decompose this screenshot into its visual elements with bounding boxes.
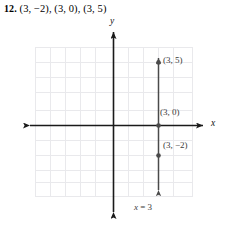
coordinate-plane xyxy=(0,0,229,232)
plotted-point-3-0 xyxy=(156,123,161,128)
line-equation-value: 3 xyxy=(148,202,153,212)
plotted-point-3-5 xyxy=(156,60,161,65)
line-equation-operator: = xyxy=(138,202,148,212)
plotted-point-3-neg2 xyxy=(156,153,161,158)
point-label-3-5: (3, 5) xyxy=(163,55,183,65)
x-axis-label: x xyxy=(211,118,215,128)
point-label-3-0: (3, 0) xyxy=(160,107,180,117)
y-axis-label: y xyxy=(110,16,114,26)
line-equation-label: x = 3 xyxy=(134,202,152,212)
point-label-3-neg2: (3, −2) xyxy=(163,140,188,150)
